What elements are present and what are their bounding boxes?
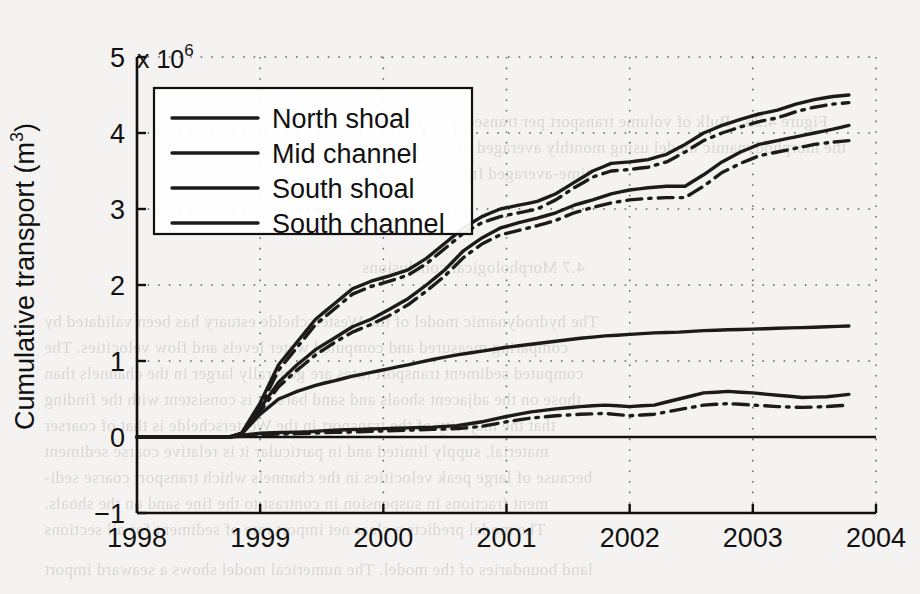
y-tick-label: 3 [110, 195, 125, 225]
y-axis-title: Cumulative transport (m3) [7, 123, 40, 430]
y-tick-label: 0 [110, 423, 125, 453]
legend-label: Mid channel [272, 139, 418, 169]
x-tick-label: 1999 [230, 523, 290, 553]
x-tick-label: 1998 [107, 523, 167, 553]
y-tick-label: 5 [110, 43, 125, 73]
y-tick-label: 2 [110, 271, 125, 301]
figure-container: 543210−11998199920002001200220032004 x 1… [0, 0, 920, 594]
x-tick-label: 2001 [476, 523, 536, 553]
y-tick-label: 1 [110, 347, 125, 377]
x-tick-label: 2000 [353, 523, 413, 553]
x-tick-label: 2004 [846, 523, 906, 553]
legend-label: South channel [272, 209, 445, 239]
legend[interactable]: North shoalMid channelSouth shoalSouth c… [154, 88, 472, 239]
x-tick-label: 2002 [600, 523, 660, 553]
x-tick-label: 2003 [723, 523, 783, 553]
y-tick-label: 4 [110, 119, 125, 149]
chart-svg: 543210−11998199920002001200220032004 x 1… [0, 0, 920, 594]
legend-label: North shoal [272, 104, 410, 134]
legend-label: South shoal [272, 174, 415, 204]
y-axis-exponent-label: x 106 [137, 41, 194, 73]
